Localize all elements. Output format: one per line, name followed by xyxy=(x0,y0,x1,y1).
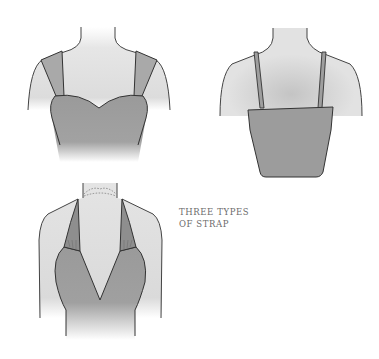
figure-wide-strap xyxy=(28,27,170,162)
strap-illustration xyxy=(0,0,379,359)
figure-spaghetti-strap xyxy=(220,28,362,177)
straight-back-bodice xyxy=(248,107,333,177)
caption-line-1: THREE TYPES xyxy=(179,206,249,218)
caption-line-2: OF STRAP xyxy=(179,218,249,230)
figure-halter-strap xyxy=(39,183,162,340)
caption: THREE TYPES OF STRAP xyxy=(179,206,249,230)
back-skin xyxy=(220,28,362,116)
